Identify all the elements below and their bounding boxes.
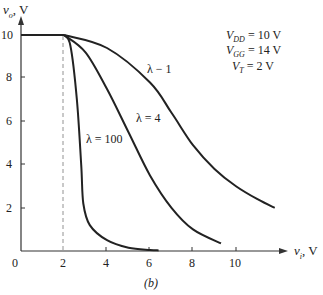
y-tick-6: 6	[6, 114, 12, 129]
origin-label: 0	[12, 256, 18, 271]
y-tick-2: 2	[6, 201, 12, 216]
figure-caption: (b)	[144, 276, 158, 291]
y-axis-label: vo, V	[3, 2, 28, 20]
y-tick-8: 8	[6, 70, 12, 85]
y-tick-10: 10	[1, 28, 13, 43]
label-lambda-100: λ = 100	[86, 132, 123, 147]
x-axis-arrow-icon	[279, 248, 288, 254]
x-tick-8: 8	[189, 256, 195, 271]
x-tick-10: 10	[229, 256, 241, 271]
parameter-block: VDD = 10 V VGG = 14 V VT = 2 V	[226, 30, 281, 76]
x-axis-label: vi, V	[294, 243, 318, 261]
label-lambda-4: λ = 4	[136, 111, 161, 126]
param-vt: VT = 2 V	[226, 61, 281, 76]
y-tick-4: 4	[6, 157, 12, 172]
label-lambda-1: λ − 1	[147, 62, 172, 77]
x-tick-4: 4	[103, 256, 109, 271]
x-tick-6: 6	[146, 256, 152, 271]
x-tick-2: 2	[60, 256, 66, 271]
